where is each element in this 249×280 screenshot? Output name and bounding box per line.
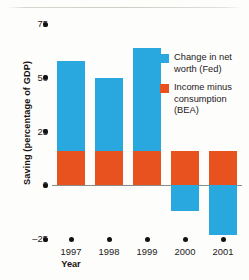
bar-segment-change-in-net-worth [57,61,85,151]
x-axis-title: Year [51,259,91,269]
legend-swatch-icon [160,54,169,63]
x-tick-dot [183,237,188,242]
bar-segment-income-minus-consumption [133,151,161,185]
y-tick-dot [43,183,48,188]
bar-segment-change-in-net-worth [209,185,237,234]
bar-1998 [95,24,123,239]
y-tick-dot [43,237,48,242]
x-tick-label: 1997 [51,246,91,257]
bar-segment-income-minus-consumption [57,151,85,185]
x-tick-dot [107,237,112,242]
page-rule [6,7,243,8]
legend-item: Change in net worth (Fed) [160,52,249,75]
legend-label: Income minus consumption (BEA) [174,82,249,117]
x-tick-dot [69,237,74,242]
legend-swatch-icon [160,84,169,93]
y-tick-dot [43,22,48,27]
legend-item: Income minus consumption (BEA) [160,82,249,117]
bar-segment-change-in-net-worth [133,48,161,151]
x-tick-label: 1998 [89,246,129,257]
bar-segment-income-minus-consumption [209,151,237,185]
bar-1999 [133,24,161,239]
chart-legend: Change in net worth (Fed)Income minus co… [160,52,249,124]
legend-label: Change in net worth (Fed) [174,52,249,75]
y-tick-dot [43,129,48,134]
bar-segment-change-in-net-worth [95,78,123,151]
chart-figure: Saving (percentage of GDP) 7550250–25 19… [0,0,249,280]
bar-segment-income-minus-consumption [95,151,123,185]
bar-segment-income-minus-consumption [171,151,199,185]
x-tick-label: 1999 [127,246,167,257]
x-tick-label: 2001 [203,246,243,257]
x-tick-dot [221,237,226,242]
bar-segment-change-in-net-worth [171,185,199,211]
x-tick-label: 2000 [165,246,205,257]
x-tick-dot [145,237,150,242]
bar-1997 [57,24,85,239]
